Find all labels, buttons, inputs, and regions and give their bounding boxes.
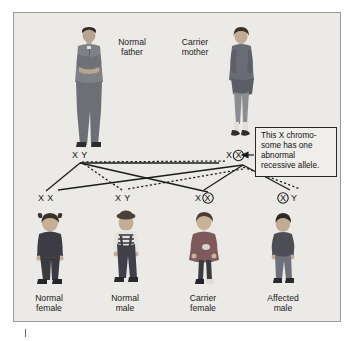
- am-label-line2: male: [258, 304, 308, 314]
- bottom-tick-mark: [25, 329, 26, 337]
- nm-allele-1: X: [115, 193, 121, 203]
- callout-line-2: some has one: [261, 141, 332, 151]
- father-label-line2: father: [110, 48, 154, 58]
- carrier-female-genotype: XX: [195, 193, 212, 203]
- am-allele-1: X: [280, 193, 286, 203]
- mother-label: Carrier mother: [172, 38, 218, 57]
- callout-line-4: recessive allele.: [261, 161, 332, 171]
- callout-line-1: This X chromo-: [261, 131, 332, 141]
- normal-male-genotype: X Y: [115, 193, 131, 203]
- mother-allele-affected: X: [235, 150, 241, 160]
- nm-label-line2: male: [102, 304, 148, 314]
- father-label: Normal father: [110, 38, 154, 57]
- carrier-female-label: Carrier female: [180, 294, 226, 313]
- cf-allele-2: X: [204, 193, 210, 203]
- normal-female-label: Normal female: [26, 294, 72, 313]
- am-allele-2: Y: [291, 193, 297, 203]
- mother-genotype: XX: [226, 150, 243, 160]
- mother-label-line2: mother: [172, 48, 218, 58]
- callout-line-3: abnormal: [261, 151, 332, 161]
- nf-allele-2: X: [47, 193, 53, 203]
- normal-male-label: Normal male: [102, 294, 148, 313]
- cf-label-line2: female: [180, 304, 226, 314]
- nf-allele-1: X: [38, 193, 44, 203]
- father-genotype: X Y: [72, 150, 88, 160]
- nf-label-line2: female: [26, 304, 72, 314]
- nm-allele-2: Y: [124, 193, 130, 203]
- affected-male-genotype: XY: [280, 193, 297, 203]
- callout-box: This X chromo- some has one abnormal rec…: [255, 127, 337, 177]
- callout-text: This X chromo- some has one abnormal rec…: [261, 131, 332, 171]
- normal-female-genotype: X X: [38, 193, 54, 203]
- affected-male-label: Affected male: [258, 294, 308, 313]
